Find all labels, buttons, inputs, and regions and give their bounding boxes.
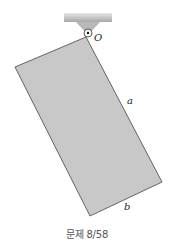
figure-caption: 문제 8/58 bbox=[0, 226, 174, 241]
pivot-label-O: O bbox=[94, 32, 102, 43]
pendulum-plate-diagram: O a b bbox=[0, 0, 174, 247]
pivot-pin-dot bbox=[87, 32, 89, 34]
side-label-b: b bbox=[124, 201, 130, 212]
side-label-a: a bbox=[127, 95, 133, 106]
rectangular-plate bbox=[15, 37, 162, 216]
ceiling-support bbox=[64, 13, 112, 22]
